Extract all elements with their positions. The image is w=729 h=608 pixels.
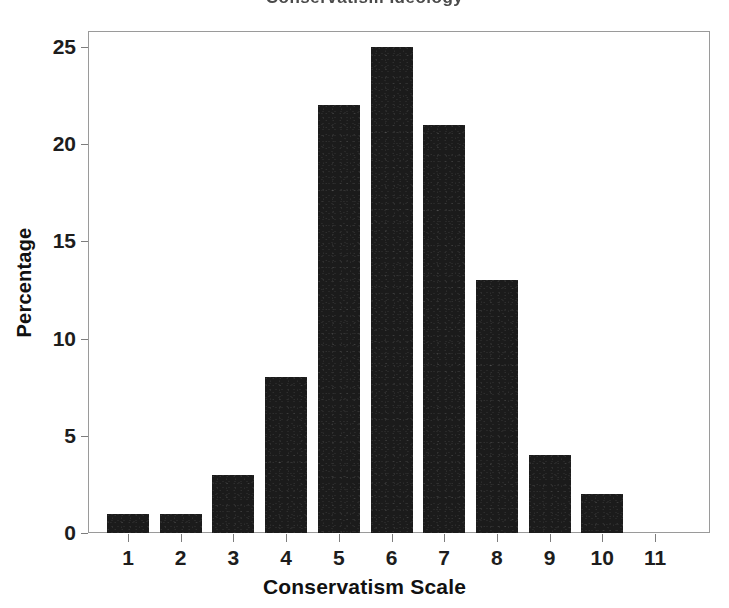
x-axis-tick [339, 534, 340, 542]
x-axis-tick-label: 9 [520, 546, 580, 569]
cut-off-chart-title-text: Conservatism Ideology [266, 0, 464, 6]
y-axis-tick [81, 533, 88, 534]
x-axis-tick [392, 534, 393, 542]
bar-chart-figure: Conservatism Ideology Percentage Conserv… [0, 0, 729, 608]
x-axis-tick-label: 8 [467, 546, 527, 569]
y-axis-title: Percentage [13, 183, 36, 383]
y-axis-tick-label: 25 [30, 36, 76, 57]
plot-area [88, 31, 710, 533]
y-axis-tick [81, 144, 88, 145]
x-axis-tick-label: 5 [309, 546, 369, 569]
x-axis-tick [181, 534, 182, 542]
bar [476, 280, 518, 533]
bar [318, 105, 360, 533]
x-axis-title: Conservatism Scale [0, 575, 729, 599]
x-axis-tick-label: 7 [414, 546, 474, 569]
x-axis-tick-label: 10 [572, 546, 632, 569]
y-axis-tick-label: 5 [30, 425, 76, 446]
bar [581, 494, 623, 533]
x-axis-tick-label: 2 [151, 546, 211, 569]
y-axis-tick [81, 436, 88, 437]
x-axis-tick [655, 534, 656, 542]
bar [529, 455, 571, 533]
x-axis-tick [233, 534, 234, 542]
y-axis-tick [81, 241, 88, 242]
bar [371, 47, 413, 533]
x-axis-tick-label: 4 [256, 546, 316, 569]
x-axis-tick [550, 534, 551, 542]
x-axis-tick [602, 534, 603, 542]
bar [160, 514, 202, 533]
x-axis-tick-label: 6 [362, 546, 422, 569]
x-axis-tick-label: 3 [203, 546, 263, 569]
y-axis-tick-label: 10 [30, 328, 76, 349]
y-axis-tick-label: 0 [30, 522, 76, 543]
cut-off-chart-title: Conservatism Ideology [0, 0, 729, 7]
x-axis-tick [128, 534, 129, 542]
bar [265, 377, 307, 533]
x-axis-tick [497, 534, 498, 542]
bar [423, 125, 465, 533]
y-axis-tick-label: 15 [30, 230, 76, 251]
y-axis-tick [81, 47, 88, 48]
bar [107, 514, 149, 533]
x-axis-tick [286, 534, 287, 542]
bar [212, 475, 254, 533]
y-axis-tick [81, 339, 88, 340]
x-axis-tick-label: 11 [625, 546, 685, 569]
x-axis-tick [444, 534, 445, 542]
y-axis-tick-label: 20 [30, 133, 76, 154]
x-axis-tick-label: 1 [98, 546, 158, 569]
